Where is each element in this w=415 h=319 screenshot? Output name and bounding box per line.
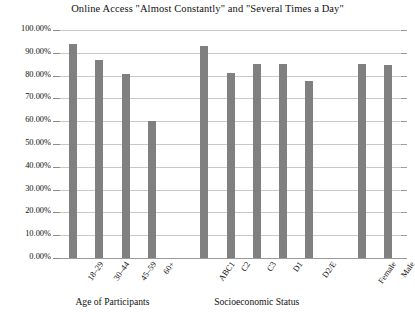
bar xyxy=(69,44,77,258)
x-tick-label: C3 xyxy=(265,260,278,273)
bar xyxy=(358,64,366,258)
y-tick-mark-right xyxy=(401,121,407,122)
y-tick-mark xyxy=(53,167,60,168)
x-tick-label: C2 xyxy=(239,260,252,273)
y-tick-label: 30.00% xyxy=(25,184,51,193)
y-tick-label: 70.00% xyxy=(25,92,51,101)
x-tick-label: 18–29 xyxy=(86,260,105,282)
x-tick-label: D2/E xyxy=(321,260,339,280)
y-tick-mark xyxy=(53,190,60,191)
bar xyxy=(148,121,156,258)
bar xyxy=(384,65,392,258)
y-tick-mark-right xyxy=(401,76,407,77)
y-tick-mark xyxy=(53,144,60,145)
y-tick-mark xyxy=(53,121,60,122)
y-tick-label: 100.00% xyxy=(21,24,51,33)
x-tick-label: 45–59 xyxy=(138,260,157,282)
y-tick-label: 20.00% xyxy=(25,206,51,215)
group-label: Age of Participants xyxy=(32,296,192,307)
x-tick-label: 30–44 xyxy=(112,260,131,282)
y-tick-mark-right xyxy=(401,190,407,191)
y-tick-label: 60.00% xyxy=(25,115,51,124)
x-tick-label: Male xyxy=(399,260,415,279)
x-axis-labels: 18–2930–4445–5960+ABC1C2C3D1D2/EFemaleMa… xyxy=(60,258,401,298)
y-tick-mark xyxy=(53,53,60,54)
y-axis: 0.00%10.00%20.00%30.00%40.00%50.00%60.00… xyxy=(0,30,60,258)
y-tick-mark-right xyxy=(401,144,407,145)
y-tick-mark-right xyxy=(401,167,407,168)
bars-layer xyxy=(60,30,401,258)
y-tick-label: 10.00% xyxy=(25,229,51,238)
bar-chart: Online Access "Almost Constantly" and "S… xyxy=(0,0,415,319)
bar xyxy=(95,60,103,258)
y-tick-mark-right xyxy=(401,235,407,236)
y-tick-mark-right xyxy=(401,212,407,213)
bar xyxy=(122,74,130,258)
chart-title: Online Access "Almost Constantly" and "S… xyxy=(0,3,415,14)
y-tick-mark-right xyxy=(401,53,407,54)
group-labels: Age of ParticipantsSocioeconomic Status xyxy=(0,296,415,316)
y-tick-label: 90.00% xyxy=(25,47,51,56)
y-tick-mark xyxy=(53,98,60,99)
y-tick-mark xyxy=(53,76,60,77)
x-tick-label: D1 xyxy=(291,260,304,274)
y-tick-label: 80.00% xyxy=(25,70,51,79)
y-tick-label: 50.00% xyxy=(25,138,51,147)
x-tick-label: 60+ xyxy=(161,260,176,276)
y-tick-label: 40.00% xyxy=(25,161,51,170)
x-tick-label: Female xyxy=(376,260,398,285)
plot-area xyxy=(60,30,401,258)
y-tick-mark xyxy=(53,212,60,213)
y-tick-mark xyxy=(53,258,60,259)
y-tick-mark xyxy=(53,235,60,236)
bar xyxy=(253,64,261,258)
group-label: Socioeconomic Status xyxy=(177,296,337,307)
y-tick-mark-right xyxy=(401,98,407,99)
bar xyxy=(279,64,287,258)
x-tick-label: ABC1 xyxy=(217,260,237,283)
y-tick-mark-right xyxy=(401,30,407,31)
y-tick-mark xyxy=(53,30,60,31)
bar xyxy=(200,46,208,258)
bar xyxy=(227,73,235,258)
y-tick-mark-right xyxy=(401,258,407,259)
bar xyxy=(305,81,313,258)
y-tick-label: 0.00% xyxy=(29,252,51,261)
